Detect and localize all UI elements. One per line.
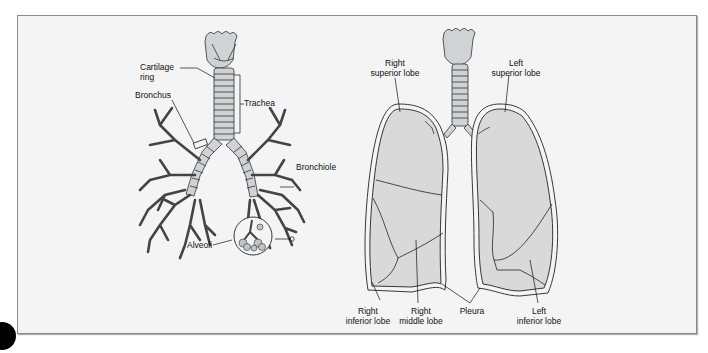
- label-cartilage-ring: Cartilage ring: [140, 62, 174, 82]
- label-line: inferior lobe: [512, 316, 566, 326]
- right-lung: [365, 104, 448, 292]
- label-left-superior-lobe: Left superior lobe: [488, 58, 544, 78]
- label-line: superior lobe: [367, 68, 423, 78]
- label-line: inferior lobe: [340, 316, 396, 326]
- label-line: Right: [396, 306, 446, 316]
- label-right-inferior-lobe: Right inferior lobe: [340, 306, 396, 326]
- label-line: Left: [512, 306, 566, 316]
- label-line: ring: [140, 72, 174, 82]
- label-line: superior lobe: [488, 68, 544, 78]
- label-line: middle lobe: [396, 316, 446, 326]
- label-line: Left: [488, 58, 544, 68]
- lungs-trachea: [443, 29, 476, 139]
- label-right-superior-lobe: Right superior lobe: [367, 58, 423, 78]
- label-right-middle-lobe: Right middle lobe: [396, 306, 446, 326]
- label-line: Right: [340, 306, 396, 316]
- bronchiole-branches-left: [140, 108, 215, 258]
- label-pleura: Pleura: [455, 306, 489, 316]
- label-bronchiole: Bronchiole: [296, 162, 336, 172]
- label-bronchus: Bronchus: [135, 90, 171, 100]
- anatomy-illustration: [0, 0, 708, 353]
- label-trachea: Trachea: [244, 98, 275, 108]
- label-line: Right: [367, 58, 423, 68]
- left-lung: [471, 104, 557, 296]
- label-left-inferior-lobe: Left inferior lobe: [512, 306, 566, 326]
- alveoli-magnifier: [234, 217, 272, 255]
- label-line: Cartilage: [140, 62, 174, 72]
- label-alveoli: Alveoli: [187, 240, 212, 250]
- respiratory-tree: [186, 32, 258, 198]
